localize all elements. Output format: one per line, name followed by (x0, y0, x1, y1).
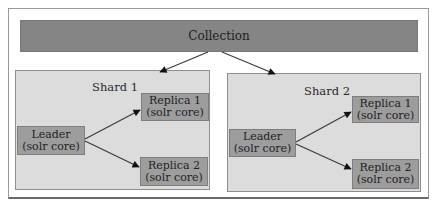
shard-2-title: Shard 2 (304, 84, 350, 98)
collection-label: Collection (188, 29, 250, 43)
replica-label: Replica 2 (148, 160, 200, 172)
replica-sublabel: (solr core) (145, 172, 203, 184)
shard-1-replica-2: Replica 2 (solr core) (140, 157, 208, 186)
leader-sublabel: (solr core) (22, 141, 80, 153)
collection-box: Collection (20, 20, 418, 52)
replica-sublabel: (solr core) (146, 107, 204, 119)
leader-sublabel: (solr core) (234, 143, 292, 155)
shard-2-replica-1: Replica 1 (solr core) (352, 96, 419, 123)
replica-sublabel: (solr core) (357, 110, 415, 122)
shard-1-replica-1: Replica 1 (solr core) (141, 93, 209, 121)
replica-sublabel: (solr core) (357, 174, 415, 186)
shard-2-replica-2: Replica 2 (solr core) (352, 159, 419, 189)
shard-1-title: Shard 1 (92, 80, 138, 94)
leader-label: Leader (31, 129, 70, 141)
shard-2-leader: Leader (solr core) (229, 129, 296, 157)
replica-label: Replica 1 (359, 98, 411, 110)
shard-1-leader: Leader (solr core) (17, 126, 85, 155)
